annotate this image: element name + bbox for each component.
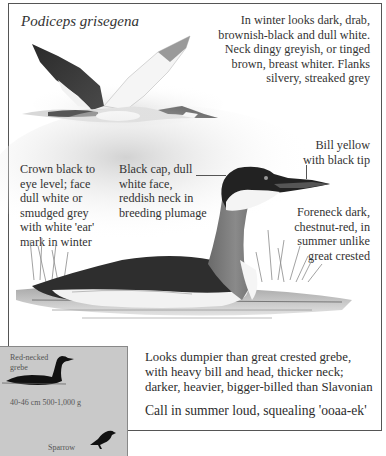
sparrow-silhouette-icon [88,427,116,451]
swimming-bird-illustration [12,160,372,340]
bill-line: Bill yellow [260,138,370,153]
winter-plumage-line: Neck dingy greyish, or tinged [170,42,370,57]
size-comparison-box: Red-necked grebe 40-46 cm 500-1,000 g Sp… [0,346,128,456]
comparison-line: with heavy bill and head, thicker neck; [145,365,385,380]
winter-plumage-line: In winter looks dark, drab, [170,13,370,28]
comparison-note: Looks dumpier than great crested grebe, … [145,350,385,395]
grebe-silhouette-icon [2,353,72,387]
scientific-name: Podiceps grisegena [21,13,139,30]
winter-plumage-line: brownish-black and dull white. [170,28,370,43]
comparison-line: Looks dumpier than great crested grebe, [145,350,385,365]
winter-plumage-line: silvery, streaked grey [170,71,370,86]
call-description: Call in summer loud, squealing 'ooaa-ek' [145,403,385,418]
measurements-label: 40-46 cm 500-1,000 g [10,398,81,408]
winter-plumage-line: brown, breast whiter. Flanks [170,57,370,72]
sparrow-label: Sparrow [48,443,75,453]
winter-plumage-note: In winter looks dark, drab, brownish-bla… [170,13,370,86]
comparison-line: darker, heavier, bigger-billed than Slav… [145,380,385,395]
